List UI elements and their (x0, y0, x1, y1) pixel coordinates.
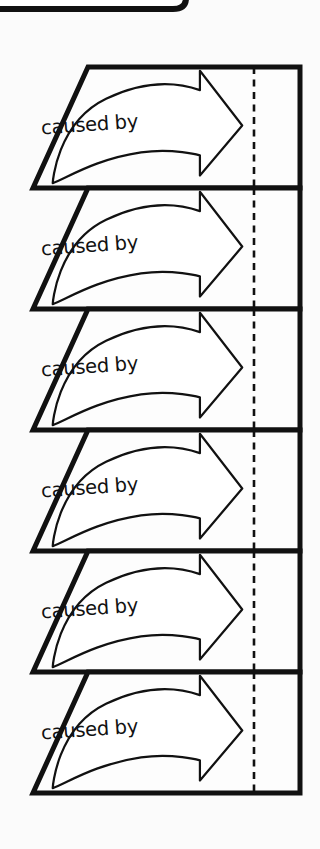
panel-3[interactable]: caused by (33, 309, 300, 430)
top-partial-rounded-rectangle (0, 0, 186, 9)
panel-6[interactable]: caused by (33, 672, 300, 793)
diagram-canvas: caused by caused by caused by (0, 0, 320, 849)
panel-4[interactable]: caused by (33, 430, 300, 551)
panel-1[interactable]: caused by (33, 67, 300, 188)
panel-5[interactable]: caused by (33, 551, 300, 672)
panel-2[interactable]: caused by (33, 188, 300, 309)
diagram-svg: caused by caused by caused by (0, 0, 320, 849)
